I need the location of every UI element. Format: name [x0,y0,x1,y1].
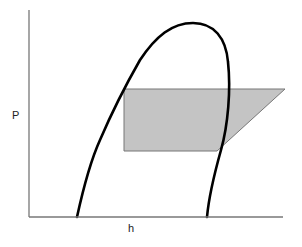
y-axis-label: P [12,110,19,121]
x-axis-label: h [128,223,134,234]
cycle-region [124,89,285,151]
ph-diagram [0,0,302,247]
